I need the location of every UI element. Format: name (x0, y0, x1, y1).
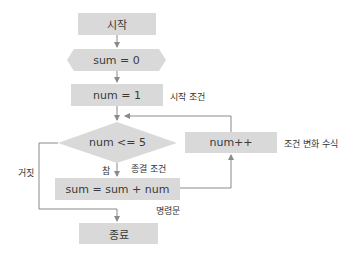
init-num-node: num = 1 (71, 84, 163, 106)
start-node: 시작 (78, 13, 156, 35)
false-branch-label: 거짓 (18, 166, 34, 179)
init-sum-label: sum = 0 (93, 54, 140, 67)
init-sum-node: sum = 0 (67, 49, 166, 71)
condition-label: num <= 5 (89, 136, 146, 149)
body-label: sum = sum + num (66, 183, 170, 196)
condition-node: num <= 5 (58, 122, 177, 163)
update-expression-annotation: 조건 변화 수식 (284, 137, 338, 150)
start-condition-annotation: 시작 조건 (170, 90, 205, 103)
end-node: 종료 (79, 223, 158, 244)
end-label: 종료 (109, 226, 129, 242)
increment-node: num++ (185, 132, 277, 153)
end-condition-annotation: 종결 조건 (131, 162, 166, 175)
true-branch-label: 참 (102, 164, 110, 177)
body-node: sum = sum + num (55, 178, 180, 200)
statement-annotation: 명령문 (156, 204, 180, 217)
start-label: 시작 (107, 16, 127, 32)
increment-label: num++ (209, 136, 252, 149)
init-num-label: num = 1 (93, 89, 141, 102)
